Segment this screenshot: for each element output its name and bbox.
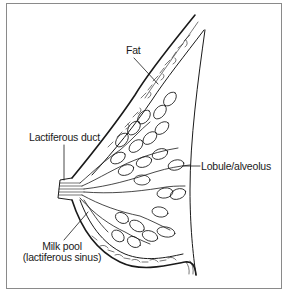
skin-outline-lower [72, 200, 196, 275]
fat-leader [134, 58, 158, 84]
label-milk-pool: Milk pool (lactiferous sinus) [22, 241, 102, 263]
leader-lines [64, 58, 200, 240]
label-lobule-alveolus: Lobule/alveolus [201, 161, 271, 172]
chest-wall [190, 30, 205, 275]
fat-texture-upper [108, 35, 190, 147]
nipple-ducts [59, 183, 84, 195]
milk-pool-leader [64, 212, 88, 240]
label-lactiferous-duct: Lactiferous duct [29, 132, 100, 143]
label-fat: Fat [126, 45, 141, 56]
lobules [109, 90, 188, 250]
label-milk-pool-line2: (lactiferous sinus) [22, 252, 102, 263]
